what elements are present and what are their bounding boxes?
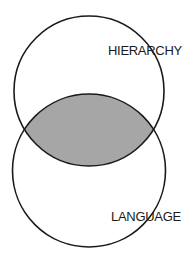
hierarchy-label: HIERARCHY <box>108 43 182 58</box>
venn-diagram: HIERARCHY LANGUAGE <box>0 0 193 264</box>
language-label: LANGUAGE <box>111 209 181 224</box>
